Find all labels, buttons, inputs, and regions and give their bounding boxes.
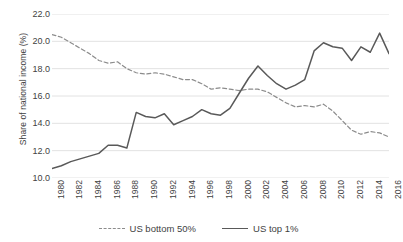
- legend-label: US top 1%: [253, 223, 298, 234]
- x-tick-label: 2006: [299, 180, 309, 199]
- series-line-1: [52, 35, 389, 138]
- x-tick-label: 1992: [168, 180, 178, 199]
- chart-legend: US bottom 50%US top 1%: [0, 218, 397, 238]
- y-axis-tick-labels: 10.012.014.016.018.020.022.0: [20, 0, 50, 242]
- y-tick-label: 16.0: [32, 91, 50, 101]
- y-tick-label: 20.0: [32, 36, 50, 46]
- y-tick-label: 10.0: [32, 173, 50, 183]
- x-tick-label: 2012: [355, 180, 365, 199]
- legend-swatch-dashed: [99, 224, 125, 232]
- x-tick-label: 2010: [336, 180, 346, 199]
- legend-label: US bottom 50%: [130, 223, 197, 234]
- x-tick-label: 2004: [280, 180, 290, 199]
- x-tick-label: 1986: [112, 180, 122, 199]
- x-tick-label: 2008: [318, 180, 328, 199]
- series-line-2: [52, 33, 389, 168]
- legend-item-2[interactable]: US top 1%: [222, 223, 298, 234]
- x-tick-label: 1994: [187, 180, 197, 199]
- x-axis-tick-labels: 1980198219841986198819901992199419961998…: [52, 180, 389, 214]
- y-tick-label: 12.0: [32, 146, 50, 156]
- x-tick-label: 2014: [374, 180, 384, 199]
- x-tick-label: 1990: [149, 180, 159, 199]
- x-tick-label: 1980: [56, 180, 66, 199]
- x-tick-label: 2016: [393, 180, 403, 199]
- x-tick-label: 1998: [224, 180, 234, 199]
- x-tick-label: 1984: [93, 180, 103, 199]
- plot-svg: [52, 14, 389, 178]
- gridlines: [52, 14, 389, 178]
- y-tick-label: 18.0: [32, 64, 50, 74]
- x-tick-label: 1988: [130, 180, 140, 199]
- x-tick-label: 1996: [205, 180, 215, 199]
- legend-item-1[interactable]: US bottom 50%: [99, 223, 197, 234]
- plot-area: [52, 14, 389, 178]
- y-tick-label: 22.0: [32, 9, 50, 19]
- series-lines: [52, 33, 389, 168]
- legend-swatch-solid: [222, 224, 248, 232]
- x-tick-label: 1982: [74, 180, 84, 199]
- x-tick-label: 2000: [243, 180, 253, 199]
- x-tick-label: 2002: [261, 180, 271, 199]
- y-tick-label: 14.0: [32, 118, 50, 128]
